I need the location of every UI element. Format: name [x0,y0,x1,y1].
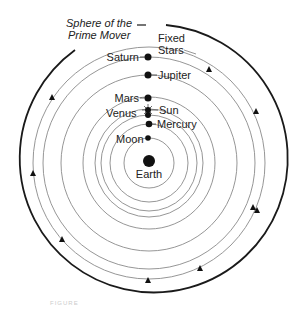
venus-dot [145,112,151,118]
mars-dot [145,95,152,102]
venus-label: Venus [106,107,137,119]
arrow-icon [30,170,36,176]
fixed-stars-label-line1: Fixed [158,32,185,44]
saturn-label: Saturn [107,51,139,63]
mercury: Mercury [146,118,198,130]
saturn: Saturn [107,51,152,63]
mercury-dot [146,121,153,128]
earth-dot [143,155,155,167]
mercury-label: Mercury [157,118,197,130]
prime-mover-label-line1: Sphere of the [66,17,132,29]
jupiter-label: Jupiter [158,69,191,81]
earth-label: Earth [136,168,162,180]
mars: Mars [115,92,152,104]
arrow-icon [253,108,259,114]
moon-dot [145,135,151,141]
moon-label: Moon [116,133,144,145]
mars-label: Mars [115,92,140,104]
jupiter-dot [145,72,152,79]
earth: Earth [136,155,162,180]
arrow-icon [206,66,212,72]
prime-mover-label-line2: Prime Mover [68,29,132,41]
fixed-stars-label-line2: Stars [158,44,184,56]
saturn-dot [145,54,152,61]
jupiter: Jupiter [145,69,192,81]
arrow-icon [250,204,256,210]
arrow-icon [145,277,151,283]
figure-caption: FIGURE [50,300,79,306]
moon: Moon [116,133,151,145]
geocentric-universe-diagram: Sphere of the Prime Mover Fixed Stars Sa… [0,0,301,312]
sun-label: Sun [159,104,179,116]
